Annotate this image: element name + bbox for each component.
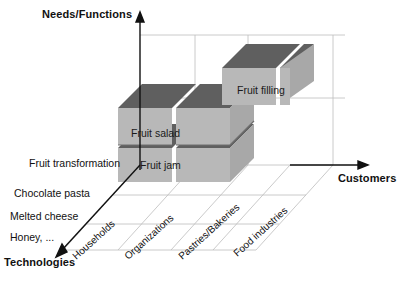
x-axis-label: Customers [338, 172, 396, 184]
fruit-jam-front-b [176, 148, 230, 182]
grid-depth-4 [256, 165, 333, 250]
x-axis-arrow [358, 161, 368, 169]
block-label-fruit-filling: Fruit filling [237, 84, 285, 96]
technology-item-melted-cheese: Melted cheese [10, 210, 78, 222]
technology-item-fruit-transformation: Fruit transformation [29, 157, 120, 169]
fruit-salad-front-b [176, 108, 230, 145]
diagram-canvas: Needs/Functions Customers Technologies F… [0, 0, 401, 282]
block-label-fruit-jam: Fruit jam [140, 159, 181, 171]
technology-item-honey: Honey, ... [10, 231, 54, 243]
technology-item-chocolate-pasta: Chocolate pasta [14, 187, 90, 199]
block-label-fruit-salad: Fruit salad [131, 127, 180, 139]
y-axis-label: Needs/Functions [42, 8, 132, 20]
z-axis-label: Technologies [4, 256, 75, 268]
y-axis-arrow [136, 12, 144, 22]
